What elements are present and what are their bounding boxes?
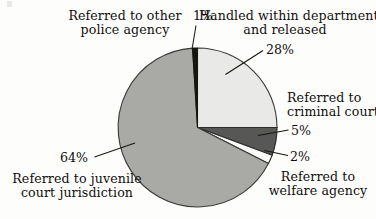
leader-line-police-agency [192,26,196,50]
slice-label-referred-to-juvenile-court: Referred to juvenile court jurisdiction [2,172,152,201]
slice-label-handled-within-department: Handled within department and released [199,9,371,38]
slice-label-referred-to-other-police-agency: Referred to other police agency [62,9,188,38]
slice-value-referred-to-criminal-court: 5% [291,124,311,138]
slice-value-referred-to-welfare-agency: 2% [290,150,310,164]
slice-label-referred-to-welfare-agency: Referred to welfare agency [262,170,374,199]
slice-label-referred-to-criminal-court: Referred to criminal court [287,91,373,120]
pie-chart-figure: Referred to other police agency 1% Handl… [0,0,376,219]
slice-value-referred-to-juvenile-court: 64% [60,151,88,165]
pie-slice-handled-within-department[interactable] [198,48,278,128]
slice-value-handled-within-department: 28% [266,43,294,57]
